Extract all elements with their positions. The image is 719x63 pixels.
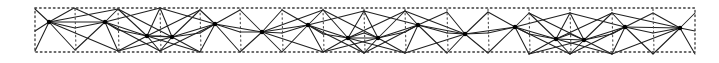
- mesh-edge: [75, 22, 105, 28]
- mesh-edge: [147, 10, 200, 36]
- hub-node-icon: [623, 25, 627, 29]
- divider-line: [200, 9, 201, 51]
- mesh-edge: [118, 36, 147, 51]
- divider-line: [653, 9, 654, 51]
- mesh-edge: [625, 27, 653, 54]
- divider-line: [405, 9, 406, 51]
- mesh-edge: [625, 27, 680, 28]
- mesh-edge: [118, 9, 147, 36]
- mesh-edge: [465, 12, 488, 34]
- divider-line: [447, 9, 448, 51]
- hub-node-icon: [463, 32, 467, 36]
- mesh-edge: [160, 8, 172, 37]
- hub-node-icon: [678, 26, 682, 30]
- mesh-edge: [308, 11, 364, 25]
- mesh-edge: [160, 37, 172, 51]
- mesh-edge: [147, 8, 160, 36]
- mesh-edge: [215, 10, 240, 24]
- mesh-edge: [74, 8, 105, 22]
- hub-node-icon: [103, 20, 107, 24]
- mesh-edge: [465, 34, 488, 53]
- mesh-edge: [240, 32, 262, 52]
- hub-node-icon: [346, 36, 350, 40]
- hub-node-icon: [376, 36, 380, 40]
- hub-node-icon: [47, 20, 51, 24]
- divider-line: [488, 9, 489, 51]
- mesh-edge: [680, 28, 695, 31]
- mesh-edge: [570, 13, 625, 27]
- mesh-edge: [488, 27, 515, 53]
- hub-node-icon: [213, 22, 217, 26]
- divider-line: [282, 9, 283, 51]
- hub-node-icon: [260, 30, 264, 34]
- mesh-edge: [680, 13, 695, 28]
- mesh-edge: [378, 38, 405, 53]
- divider-line: [75, 9, 76, 51]
- mesh-edge: [35, 9, 49, 22]
- hub-node-icon: [416, 23, 420, 27]
- mesh-edge: [262, 25, 308, 32]
- hub-node-icon: [582, 38, 586, 42]
- divider-line: [612, 9, 613, 51]
- mesh-edge: [323, 38, 348, 52]
- divider-line: [240, 9, 241, 51]
- mesh-edge: [418, 25, 465, 34]
- mesh-edge: [323, 34, 348, 38]
- hub-node-icon: [306, 23, 310, 27]
- mesh-edge: [105, 22, 147, 36]
- hub-node-icon: [145, 34, 149, 38]
- triangulated-strip-diagram: [0, 0, 719, 63]
- hub-node-icon: [513, 25, 517, 29]
- mesh-edge: [680, 28, 695, 54]
- divider-line: [529, 9, 530, 51]
- mesh-edge: [625, 13, 653, 27]
- hub-node-icon: [170, 35, 174, 39]
- mesh-edge: [488, 12, 515, 27]
- hub-node-icon: [554, 37, 558, 41]
- mesh-edge: [282, 10, 308, 25]
- mesh-edge: [75, 22, 105, 50]
- mesh-edge: [49, 22, 75, 50]
- mesh-edge: [405, 25, 418, 53]
- mesh-edge: [418, 12, 447, 25]
- mesh-edge: [653, 13, 680, 28]
